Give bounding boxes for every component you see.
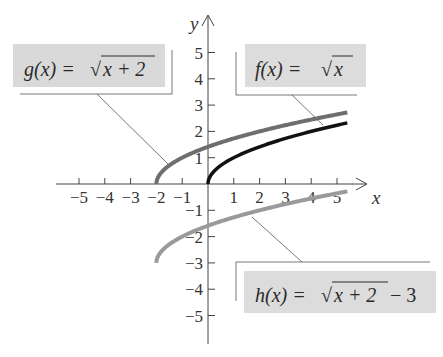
- h-radical-sign: √: [321, 284, 332, 306]
- h-label-box: h(x) = √ x + 2 − 3: [244, 271, 436, 313]
- y-tick-label: 5: [195, 44, 204, 63]
- x-axis-label: x: [371, 187, 381, 208]
- g-radical-sign: √: [90, 58, 101, 80]
- x-tick-label: −4: [96, 188, 115, 207]
- svg-text:x: x: [333, 58, 343, 80]
- svg-text:h(x) =: h(x) =: [255, 284, 306, 307]
- svg-text:g(x) =: g(x) =: [24, 58, 75, 81]
- g-label-box: g(x) = √ x + 2: [13, 44, 165, 87]
- f-curve: [208, 123, 347, 184]
- g-leader-line: [97, 94, 168, 164]
- y-tick-label: 2: [195, 122, 204, 141]
- y-tick-label: −5: [185, 307, 203, 326]
- y-tick-label: −3: [185, 254, 203, 273]
- y-tick-label: 3: [195, 96, 204, 115]
- callout-leaders: [20, 50, 430, 301]
- x-tick-label: 1: [230, 188, 239, 207]
- x-tick-label: −5: [70, 188, 88, 207]
- f-label-box: f(x) = √ x: [245, 44, 366, 87]
- svg-text:f(x) =: f(x) =: [255, 58, 301, 81]
- h-leader-line: [252, 217, 302, 262]
- function-graph: g(x) = √ x + 2 f(x) = √ x h(x) = √ x + 2…: [0, 0, 443, 357]
- y-axis-label: y: [188, 13, 199, 34]
- svg-text:− 3: − 3: [390, 284, 416, 306]
- y-tick-label: 4: [195, 70, 204, 89]
- f-radical-sign: √: [321, 58, 332, 80]
- x-tick-label: −3: [122, 188, 140, 207]
- x-tick-label: 2: [255, 188, 264, 207]
- svg-text:x + 2: x + 2: [102, 58, 145, 80]
- svg-text:x + 2: x + 2: [333, 284, 376, 306]
- y-tick-label: −4: [185, 280, 204, 299]
- y-tick-label: −1: [185, 201, 203, 220]
- x-tick-label: −2: [147, 188, 165, 207]
